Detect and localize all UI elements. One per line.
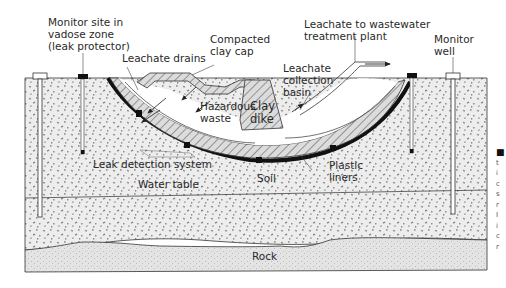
label-compacted-clay-cap: Compacted clay cap xyxy=(210,33,270,57)
label-monitor-site: Monitor site in vadose zone (leak protec… xyxy=(48,16,130,52)
label-rock: Rock xyxy=(252,250,277,262)
label-plastic-liners: Plastic liners xyxy=(329,159,363,183)
page-margin-fragment: ■ t i c s r I i c r xyxy=(496,147,506,252)
label-soil: Soil xyxy=(257,172,276,184)
label-leachate-drains: Leachate drains xyxy=(122,52,206,64)
label-water-table: Water table xyxy=(138,178,199,190)
label-leachate-collection-basin: Leachate collection basin xyxy=(283,62,333,98)
label-leachate-to-plant: Leachate to wastewater treatment plant xyxy=(304,18,430,42)
label-monitor-well: Monitor well xyxy=(434,33,474,57)
label-clay-dike: Clay dike xyxy=(250,100,275,126)
label-hazardous-waste: Hazardous waste xyxy=(200,100,256,124)
label-leak-detection-system: Leak detection system xyxy=(93,158,212,170)
